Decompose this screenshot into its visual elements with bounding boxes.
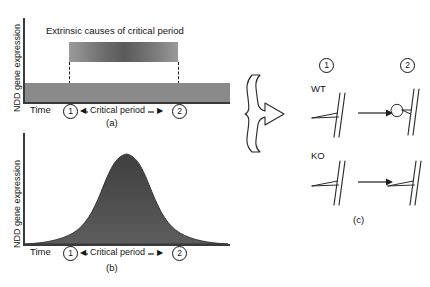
panel-a-x-axis-label: Time — [30, 104, 51, 115]
figure-root: Extrinsic causes of critical period NDD … — [0, 0, 430, 287]
wt-mushroom-spine-diagram — [386, 88, 430, 136]
ko-filopodium-after-diagram — [386, 160, 430, 206]
panel-b-y-axis-label: NDD gene expression — [12, 160, 22, 248]
panel-b-caption: (b) — [106, 262, 118, 273]
panel-b-marker-2: 2 — [172, 246, 187, 261]
panel-b-gaussian-curve — [23, 130, 230, 246]
panel-b-interval-rule — [78, 252, 160, 256]
panel-a-title: Extrinsic causes of critical period — [46, 25, 184, 36]
panel-c-column-header-2: 2 — [400, 58, 415, 73]
panel-a-interval-rule — [78, 110, 160, 114]
panel-c-column-header-1: 1 — [319, 58, 334, 73]
panel-a-y-axis-label: NDD gene expression — [12, 24, 22, 112]
curly-arrow-right-icon — [238, 72, 300, 150]
panel-b-marker-1: 1 — [63, 246, 78, 261]
panel-a-marker-2: 2 — [172, 104, 187, 119]
panel-c-caption: (c) — [353, 214, 364, 225]
wt-filopodium-diagram — [308, 92, 354, 138]
panel-a-caption: (a) — [106, 117, 118, 128]
panel-b-x-axis — [23, 244, 230, 246]
ko-filopodium-before-diagram — [308, 160, 354, 206]
panel-b-x-axis-label: Time — [30, 246, 51, 257]
extrinsic-causes-gradient-bar — [69, 42, 178, 62]
panel-a-marker-1: 1 — [63, 104, 78, 119]
panel-a-expression-band — [25, 83, 230, 102]
panel-a-x-axis — [23, 102, 230, 104]
